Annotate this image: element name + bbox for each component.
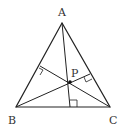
right-angle-marker-ab	[39, 68, 43, 75]
triangle-diagram: A B C P	[0, 0, 126, 130]
label-p: P	[71, 67, 79, 80]
triangle-svg: A B C P	[0, 0, 126, 130]
orthocenter-point	[68, 80, 72, 84]
right-angle-marker-bc	[70, 100, 77, 107]
altitude-from-b	[16, 74, 90, 107]
label-c: C	[109, 114, 117, 127]
label-a: A	[57, 6, 67, 19]
right-angle-marker-ac	[84, 77, 92, 82]
label-b: B	[8, 114, 16, 127]
